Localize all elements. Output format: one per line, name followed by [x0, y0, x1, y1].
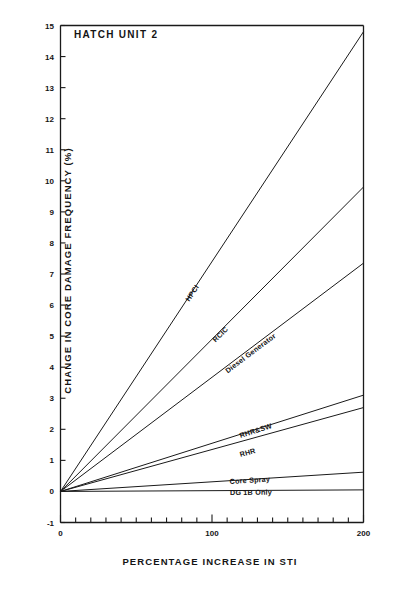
y-tick-label: 12	[20, 114, 54, 123]
y-tick-label: 5	[20, 332, 54, 341]
y-tick-label: 0	[20, 487, 54, 496]
data-line-diesel-generator	[61, 263, 364, 491]
data-line-dg-1b-only	[61, 490, 364, 492]
data-line-hpci	[61, 32, 364, 492]
x-tick-label: 100	[205, 529, 218, 538]
y-tick-label: 7	[20, 270, 54, 279]
data-line-rhr	[61, 408, 364, 492]
y-tick-label: 3	[20, 394, 54, 403]
data-lines-group	[61, 32, 364, 492]
x-axis-title: PERCENTAGE INCREASE IN STI	[55, 556, 365, 567]
y-tick-label: 1	[20, 456, 54, 465]
chart-figure: CHANGE IN CORE DAMAGE FREQUENCY (%) PERC…	[0, 0, 403, 597]
y-tick-label: 14	[20, 52, 54, 61]
data-line-rhr-sw	[61, 395, 364, 491]
y-axis-title: CHANGE IN CORE DAMAGE FREQUENCY (%)	[62, 61, 73, 481]
x-tick-label: 0	[58, 529, 62, 538]
curve-label-dg-1b-only: DG 1B Only	[230, 488, 272, 497]
y-tick-label: 6	[20, 301, 54, 310]
y-tick-label: 13	[20, 83, 54, 92]
y-tick-label: 4	[20, 363, 54, 372]
plot-canvas	[0, 0, 403, 597]
y-tick-label: 10	[20, 176, 54, 185]
y-tick-label: 9	[20, 207, 54, 216]
data-line-core-spray	[61, 472, 364, 491]
plot-title: HATCH UNIT 2	[74, 29, 158, 40]
x-tick-label: 200	[357, 529, 370, 538]
y-tick-label: 8	[20, 238, 54, 247]
y-tick-label: 15	[20, 21, 54, 30]
y-tick-label: 11	[20, 145, 54, 154]
y-tick-label: -1	[20, 518, 54, 527]
y-tick-label: 2	[20, 425, 54, 434]
